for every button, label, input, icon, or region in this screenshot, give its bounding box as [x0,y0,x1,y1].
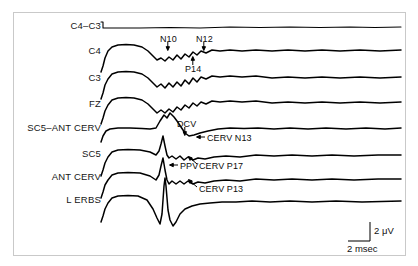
trace-ant-cerv [101,158,401,198]
trace-group [101,22,401,226]
trace-fz [101,98,401,125]
annotation-n10: N10 [160,34,177,44]
annotation-dcv: DCV [177,119,196,129]
channel-label-sc5-ant-cerv: SC5–ANT CERV [27,122,101,133]
trace-c4-c3 [101,22,401,28]
channel-label-c4: C4 [88,45,101,56]
trace-c3 [101,72,401,100]
trace-l-erbs [101,178,401,226]
channel-label-c3: C3 [88,72,101,83]
scale-time-label: 2 msec [347,243,378,254]
arrow-head [166,47,169,51]
sep-recording-figure: C4–C3C4C3FZSC5–ANT CERVSC5ANT CERVL ERBS… [0,0,418,266]
annotation-cerv-p13: CERV P13 [199,184,243,194]
annotation-ppv: PPV [180,161,198,171]
arrow-head [183,132,186,136]
channel-label-fz: FZ [89,98,101,109]
channel-label-ant-cerv: ANT CERV [52,171,101,182]
trace-c4 [101,45,401,73]
arrow-head [170,163,174,166]
channel-label-sc5: SC5 [82,148,101,159]
annotation-cerv-n13: CERV N13 [207,133,252,143]
arrow-head [202,47,205,51]
annotation-n12: N12 [196,34,213,44]
arrow-head [197,135,201,138]
arrow-head [191,57,194,61]
annotation-p14: P14 [185,64,201,74]
scale-bar [348,222,370,241]
scale-amplitude-label: 2 μV [374,225,394,236]
channel-label-c4-c3: C4–C3 [70,20,101,31]
annotation-cerv-p17: CERV P17 [199,161,243,171]
channel-label-l-erbs: L ERBS [66,194,101,205]
